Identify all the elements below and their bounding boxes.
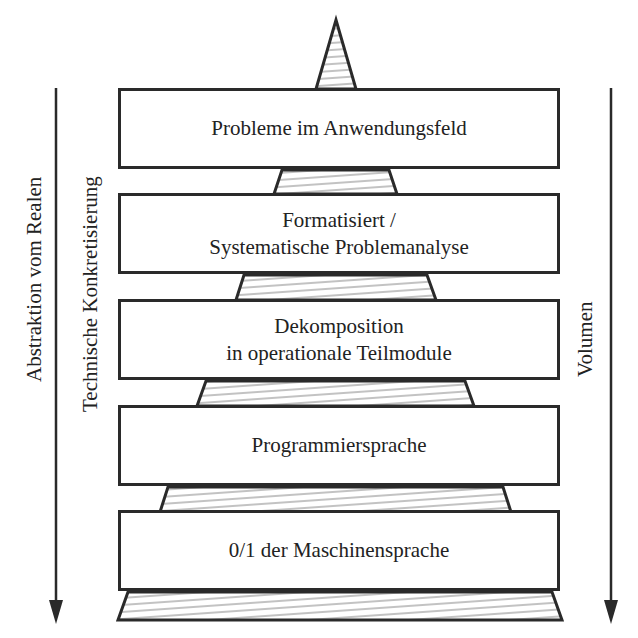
level-box-2: Formatisiert / Systematische Problemanal… (118, 193, 560, 274)
level-box-3: Dekomposition in operationale Teilmodule (118, 299, 560, 380)
level-3-line-2: in operationale Teilmodule (226, 340, 452, 367)
abstraction-label: Abstraktion vom Realen (22, 177, 47, 382)
concretization-label: Technische Konkretisierung (78, 176, 103, 412)
level-box-5: 0/1 der Maschinensprache (118, 510, 560, 591)
level-2-line-1: Formatisiert / (282, 207, 396, 234)
level-1-line-1: Probleme im Anwendungsfeld (211, 115, 466, 142)
volume-label: Volumen (573, 302, 598, 377)
level-5-line-1: 0/1 der Maschinensprache (229, 537, 449, 564)
right-arrow (604, 88, 618, 624)
connector-trapezoid-4 (160, 487, 511, 512)
level-4-line-1: Programmiersprache (252, 432, 427, 459)
base-trapezoid (118, 592, 562, 620)
connector-trapezoid-1 (274, 170, 397, 194)
connector-trapezoid-2 (236, 275, 436, 300)
level-box-1: Probleme im Anwendungsfeld (118, 88, 560, 169)
connector-trapezoid-3 (197, 381, 474, 406)
level-3-line-1: Dekomposition (274, 313, 404, 340)
left-arrow (49, 88, 63, 624)
apex-triangle (316, 20, 356, 89)
level-box-4: Programmiersprache (118, 405, 560, 486)
level-2-line-2: Systematische Problemanalyse (209, 234, 469, 261)
